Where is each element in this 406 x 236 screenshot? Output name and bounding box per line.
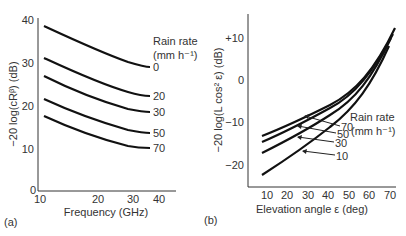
chart-a-curve-0 [44, 26, 150, 67]
chart-b-arrow-30 [297, 135, 302, 140]
chart-a-series-label: 50 [153, 127, 165, 139]
chart-b-ytick: −20 [225, 159, 244, 171]
chart-b-ytick: −10 [225, 116, 244, 128]
chart-a-series-label: 0 [153, 61, 159, 73]
chart-a-xtick: 40 [153, 193, 165, 205]
chart-b: +10 0 −10 −20 10 20 30 40 50 60 70 Eleva… [204, 14, 396, 226]
chart-b-leader-10 [303, 151, 335, 155]
chart-a-ytick: 20 [22, 100, 34, 112]
chart-b-xtick: 40 [322, 189, 334, 201]
chart-a-series-label: 70 [153, 142, 165, 154]
chart-b-ylabel: −20 log(L cos² ε) (dB) [212, 47, 224, 152]
chart-b-legend-unit: (mm h⁻¹) [351, 125, 396, 137]
chart-b-xtick: 10 [261, 189, 273, 201]
chart-a-legend-unit: (mm h⁻¹) [153, 49, 198, 61]
chart-b-series-label: 30 [335, 137, 347, 149]
chart-a: 40 30 20 10 0 10 20 30 40 Frequency (GHz… [4, 14, 198, 228]
chart-a-xtick: 30 [127, 193, 139, 205]
chart-a-ytick: 10 [22, 143, 34, 155]
figure: 40 30 20 10 0 10 20 30 40 Frequency (GHz… [0, 0, 406, 236]
chart-b-xtick: 20 [281, 189, 293, 201]
chart-a-ytick: 40 [22, 14, 34, 26]
chart-a-legend-title: Rain rate [153, 35, 198, 47]
chart-a-xtick: 10 [34, 193, 46, 205]
chart-b-xtick: 60 [363, 189, 375, 201]
chart-b-ytick: +10 [225, 32, 244, 44]
chart-b-panel-label: (b) [204, 214, 217, 226]
chart-a-xtick: 20 [92, 193, 104, 205]
chart-a-series-label: 20 [153, 90, 165, 102]
chart-b-legend-title: Rain rate [350, 111, 395, 123]
chart-b-leader-70 [305, 116, 340, 126]
chart-b-xtick: 70 [384, 189, 396, 201]
chart-b-xtick: 30 [302, 189, 314, 201]
chart-b-xlabel: Elevation angle ε (deg) [256, 203, 368, 215]
chart-b-arrow-10 [302, 149, 307, 154]
chart-b-xtick: 50 [343, 189, 355, 201]
chart-a-xlabel: Frequency (GHz) [64, 206, 148, 218]
chart-a-curve-50 [44, 99, 150, 133]
chart-b-series-label: 10 [336, 150, 348, 162]
chart-a-ylabel: −20 log(cRᵝ) (dB) [7, 61, 19, 146]
chart-a-panel-label: (a) [4, 216, 17, 228]
chart-a-series-label: 30 [153, 106, 165, 118]
chart-a-ytick: 30 [22, 57, 34, 69]
chart-b-ytick: 0 [238, 74, 244, 86]
